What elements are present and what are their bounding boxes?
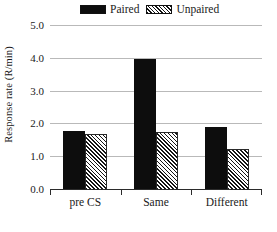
y-axis-tick-label: 2.0	[30, 118, 44, 129]
bar-paired-same	[134, 59, 156, 189]
bar-group	[205, 25, 249, 189]
legend-label-unpaired: Unpaired	[176, 4, 219, 16]
bar-group	[63, 25, 107, 189]
bar-group	[134, 25, 178, 189]
bar-paired-different	[205, 127, 227, 189]
bar-paired-pre-cs	[63, 131, 85, 189]
x-axis-tick	[261, 189, 262, 195]
y-axis-tick-label: 0.0	[30, 184, 44, 195]
x-axis-tick	[50, 189, 51, 195]
x-axis-line	[50, 189, 262, 190]
bar-unpaired-pre-cs	[85, 134, 107, 189]
x-axis-tick	[121, 189, 122, 195]
x-axis-tick-labels: pre CSSameDifferent	[50, 196, 262, 216]
bar-series-container	[50, 25, 262, 189]
x-axis-tick	[191, 189, 192, 195]
legend-swatch-paired-icon	[80, 5, 106, 14]
legend-entry-paired: Paired	[80, 4, 139, 16]
bar-unpaired-same	[156, 132, 178, 189]
plot-area: 5.04.03.02.01.00.0	[50, 25, 262, 189]
x-axis-tick-label-pre-cs: pre CS	[69, 196, 101, 209]
y-axis-tick-label: 4.0	[30, 52, 44, 63]
legend-label-paired: Paired	[110, 4, 139, 16]
y-axis-title-text: Response rate (R/min)	[3, 46, 14, 143]
bar-unpaired-different	[227, 149, 249, 189]
x-axis-tick-label-same: Same	[143, 196, 169, 209]
legend-swatch-unpaired-icon	[146, 5, 172, 14]
chart-legend: Paired Unpaired	[80, 1, 219, 18]
bar-chart-figure: Paired Unpaired Response rate (R/min) 5.…	[0, 0, 277, 232]
legend-entry-unpaired: Unpaired	[146, 4, 219, 16]
x-axis-tick-label-different: Different	[206, 196, 248, 209]
y-axis-tick-label: 3.0	[30, 85, 44, 96]
y-axis-tick-label: 5.0	[30, 20, 44, 31]
y-axis-tick-label: 1.0	[30, 151, 44, 162]
y-axis-title: Response rate (R/min)	[0, 0, 16, 189]
